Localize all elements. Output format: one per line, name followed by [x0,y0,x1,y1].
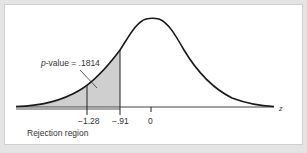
axis-label-z: z [278,105,283,112]
tick-label-neg128: −1.28 [78,116,100,126]
tick-label-zero: 0 [148,116,153,126]
normal-distribution-chart: p-value = .1814 −1.28 −.91 0 z Rejection… [0,0,307,153]
pvalue-label: p-value = .1814 [40,58,100,68]
tick-label-neg091: −.91 [112,116,129,126]
rejection-region-label: Rejection region [27,128,89,138]
